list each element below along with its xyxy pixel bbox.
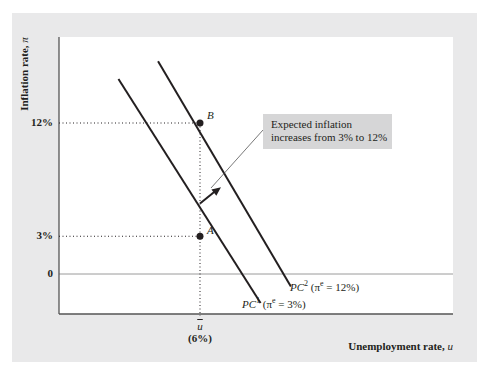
annotation-line-2: increases from 3% to 12% [271,131,392,144]
y-tick-label: 3% [13,229,53,241]
point-b [197,120,204,127]
x-axis-label: Unemployment rate, u [348,340,453,352]
callout-leader-line [211,130,263,188]
phillips-curve-pc1 [118,79,260,303]
shift-arrow-head [211,187,221,196]
natural-rate-symbol: u [186,320,214,332]
x-tick-label: u (6%) [186,320,214,344]
y-tick-label: 0 [13,267,53,279]
pc2-label: PC2 (πe = 12%) [290,279,359,293]
pc1-label: PC1 (πe = 3%) [242,296,306,310]
natural-rate-value: (6%) [188,332,212,344]
y-axis-label: Inflation rate, π [18,37,30,111]
point-a [197,233,204,240]
annotation-callout: Expected inflation increases from 3% to … [263,114,392,149]
annotation-line-1: Expected inflation [271,118,392,131]
y-tick-label: 12% [13,116,53,128]
point-a-label: A [207,224,214,236]
point-b-label: B [207,109,214,121]
chart-svg [0,0,489,384]
